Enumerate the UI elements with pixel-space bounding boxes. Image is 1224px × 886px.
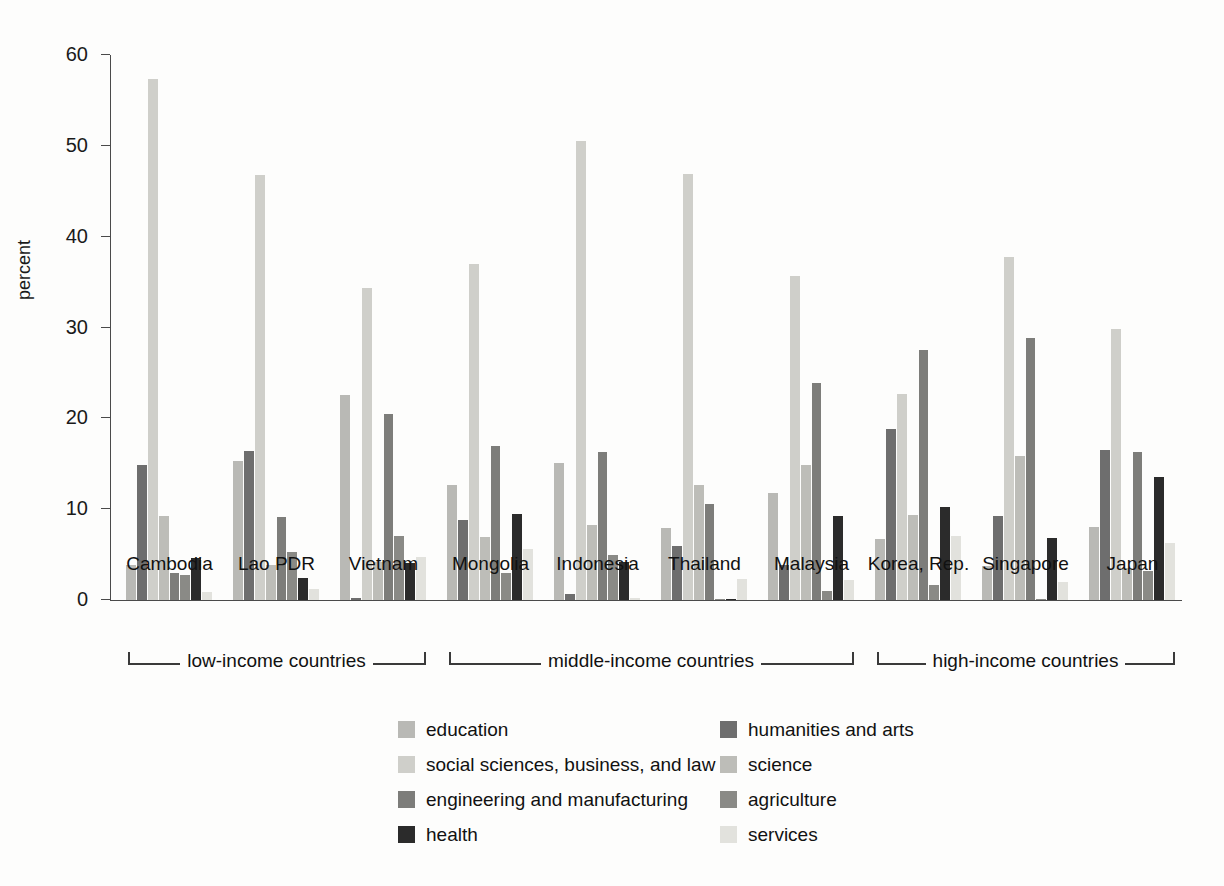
bar [1058,582,1068,600]
chart-figure: percent 0102030405060 CambodiaLao PDRVie… [0,0,1224,886]
bar [576,141,586,600]
bar [447,485,457,600]
bar [801,465,811,600]
bar-group [554,55,641,600]
y-axis-tick: 60 [101,54,110,55]
bracket-label: middle-income countries [541,650,761,672]
bar [790,276,800,600]
legend-swatch-icon [720,756,737,773]
bar [630,598,640,600]
legend-label: engineering and manufacturing [426,789,688,811]
y-axis-tick-label: 20 [66,406,88,429]
income-bracket: middle-income countries [449,652,854,678]
bar [1100,450,1110,600]
bar [1133,452,1143,600]
y-axis-tick-label: 10 [66,497,88,520]
bar [1004,257,1014,600]
bar-group [340,55,427,600]
bar [715,599,725,600]
legend-swatch-icon [720,721,737,738]
bar-group [661,55,748,600]
bracket-tick-right [852,652,854,665]
legend-item[interactable]: education [398,712,715,747]
legend-swatch-icon [720,791,737,808]
bar [737,579,747,600]
legend-swatch-icon [398,826,415,843]
bar-group [875,55,962,600]
y-axis-tick-label: 60 [66,43,88,66]
y-axis-title: percent [14,240,35,300]
bar [137,465,147,600]
bar [491,446,501,600]
y-axis-tick: 10 [101,508,110,509]
x-axis-line [110,600,1182,601]
y-axis-tick: 40 [101,236,110,237]
y-axis-tick: 30 [101,327,110,328]
legend-item[interactable]: services [720,817,914,852]
y-axis-tick-label: 0 [77,588,88,611]
bar [1036,599,1046,600]
bar [929,585,939,600]
bar-group [447,55,534,600]
bar [298,578,308,600]
legend-swatch-icon [398,756,415,773]
legend-item[interactable]: health [398,817,715,852]
bar-group-bars [875,55,962,600]
bar [233,461,243,600]
bar-group-bars [233,55,320,600]
y-axis-tick-label: 40 [66,225,88,248]
legend-item[interactable]: engineering and manufacturing [398,782,715,817]
bar [255,175,265,600]
bar [1015,456,1025,600]
bar-group-bars [768,55,855,600]
legend-label: health [426,824,478,846]
bar [683,174,693,600]
legend-label: social sciences, business, and law [426,754,715,776]
bar [309,589,319,600]
bar-group-bars [661,55,748,600]
legend-label: agriculture [748,789,837,811]
y-axis-tick: 50 [101,145,110,146]
legend-swatch-icon [398,721,415,738]
bar [705,504,715,600]
bar [726,599,736,600]
bar [822,591,832,600]
bracket-tick-right [1173,652,1175,665]
bar [180,575,190,600]
x-axis-category-label: Japan [1053,553,1213,575]
legend-item[interactable]: social sciences, business, and law [398,747,715,782]
bracket-label: high-income countries [926,650,1126,672]
bar-group-bars [554,55,641,600]
bar-group-bars [447,55,534,600]
y-axis-tick: 0 [101,599,110,600]
bar-group [982,55,1069,600]
bar-group [768,55,855,600]
bar [844,580,854,600]
bar [351,598,361,600]
plot-area: 0102030405060 [110,55,1180,600]
bar [501,573,511,600]
legend-item[interactable]: humanities and arts [720,712,914,747]
bar [170,573,180,600]
income-bracket: high-income countries [877,652,1175,678]
bar [469,264,479,600]
bar-group [1089,55,1176,600]
legend-column-right: humanities and artsscienceagricultureser… [720,712,914,852]
legend-swatch-icon [398,791,415,808]
bar [1143,571,1153,600]
bracket-tick-right [424,652,426,665]
y-axis-tick: 20 [101,417,110,418]
bracket-label: low-income countries [180,650,372,672]
bar [244,451,254,600]
bar-group-bars [1089,55,1176,600]
legend-label: humanities and arts [748,719,914,741]
legend-swatch-icon [720,826,737,843]
bar [694,485,704,600]
bar [554,463,564,600]
bar-group [233,55,320,600]
bar [598,452,608,600]
bar-group-bars [126,55,213,600]
legend-item[interactable]: science [720,747,914,782]
legend-item[interactable]: agriculture [720,782,914,817]
bar [202,592,212,600]
